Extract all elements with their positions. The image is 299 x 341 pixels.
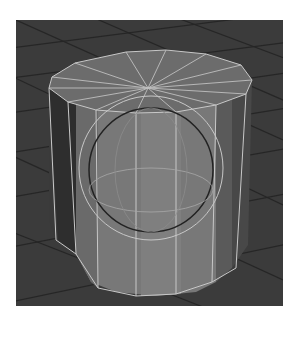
- cylinder-side-right: [232, 77, 252, 268]
- scene-render: [16, 20, 283, 306]
- 3d-viewport[interactable]: [16, 20, 283, 306]
